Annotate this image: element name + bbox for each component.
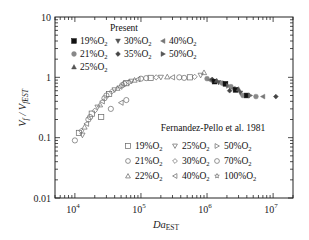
y-tick-label: 0.01 bbox=[34, 193, 52, 204]
scatter-chart: 0.010.1110104105106107 Present19%O230%O2… bbox=[0, 0, 309, 240]
diamond-marker bbox=[192, 74, 197, 79]
diamond-marker bbox=[116, 52, 121, 57]
circle-marker bbox=[215, 159, 220, 164]
svg-text:DaEST: DaEST bbox=[152, 219, 180, 232]
legend-entry-label: 19%O2 bbox=[80, 36, 108, 47]
legend-entry-label: 30%O2 bbox=[182, 156, 210, 167]
legend-entry-label: 35%O2 bbox=[124, 49, 152, 60]
triangle-up-marker bbox=[72, 65, 77, 69]
diamond-marker bbox=[273, 94, 278, 99]
triangle-up-marker bbox=[201, 70, 206, 75]
legend-entry-label: 25%O2 bbox=[182, 141, 210, 152]
x-axis-title: DaEST bbox=[152, 219, 180, 232]
diamond-marker bbox=[173, 159, 178, 164]
legend-entry-label: 25%O2 bbox=[80, 62, 108, 73]
y-tick-label: 1 bbox=[46, 72, 51, 83]
circle-marker bbox=[72, 52, 77, 57]
circle-marker bbox=[182, 75, 187, 80]
triangle-down-marker bbox=[158, 75, 163, 80]
circle-marker bbox=[72, 138, 77, 143]
y-tick-label: 10 bbox=[41, 12, 51, 23]
legend-title: Fernandez-Pello et al. 1981 bbox=[161, 123, 266, 133]
circle-marker bbox=[126, 159, 131, 164]
legend-present: Present19%O230%O240%O221%O235%O250%O225%… bbox=[72, 23, 197, 73]
x-tick-label: 106 bbox=[198, 202, 212, 215]
triangle-up-marker bbox=[126, 174, 131, 178]
legend-entry-label: 30%O2 bbox=[124, 36, 152, 47]
svg-text:Vf / VfEST: Vf / VfEST bbox=[17, 88, 30, 127]
x-tick-label: 107 bbox=[264, 202, 278, 215]
x-tick-label: 105 bbox=[132, 202, 146, 215]
legend-entry-label: 50%O2 bbox=[224, 141, 252, 152]
circle-marker bbox=[138, 76, 143, 81]
square-marker bbox=[72, 39, 77, 44]
triangle-left-marker bbox=[173, 174, 177, 179]
triangle-left-marker bbox=[118, 100, 123, 105]
triangle-down-marker bbox=[116, 39, 121, 43]
square-marker bbox=[126, 144, 131, 149]
legend-entry-label: 40%O2 bbox=[182, 171, 210, 182]
triangle-up-marker bbox=[165, 74, 170, 79]
triangle-right-marker bbox=[215, 144, 219, 149]
triangle-right-marker bbox=[161, 52, 165, 57]
y-axis-title: Vf / VfEST bbox=[17, 88, 30, 127]
x-tick-label: 104 bbox=[66, 202, 80, 215]
circle-marker bbox=[124, 97, 129, 102]
legend-entry-label: 70%O2 bbox=[224, 156, 252, 167]
legend-entry-label: 19%O2 bbox=[135, 141, 163, 152]
square-marker bbox=[99, 114, 104, 119]
square-marker bbox=[187, 75, 192, 80]
star-marker bbox=[215, 174, 220, 178]
triangle-up-marker bbox=[97, 102, 102, 107]
axis-tick-labels: 0.010.1110104105106107 bbox=[34, 12, 279, 216]
triangle-down-marker bbox=[173, 144, 178, 148]
legend-entry-label: 50%O2 bbox=[169, 49, 197, 60]
circle-marker bbox=[254, 94, 259, 99]
circle-marker bbox=[108, 106, 113, 111]
legend-entry-label: 21%O2 bbox=[135, 156, 163, 167]
diamond-marker bbox=[92, 108, 97, 113]
triangle-right-marker bbox=[248, 93, 252, 98]
legend-entry-label: 21%O2 bbox=[80, 49, 108, 60]
legend-fernandez-pello: Fernandez-Pello et al. 198119%O225%O250%… bbox=[126, 123, 266, 182]
triangle-left-marker bbox=[260, 94, 264, 99]
y-tick-label: 0.1 bbox=[39, 132, 52, 143]
legend-entry-label: 40%O2 bbox=[169, 36, 197, 47]
legend-title: Present bbox=[110, 23, 138, 33]
triangle-left-marker bbox=[161, 39, 165, 44]
circle-marker bbox=[177, 75, 182, 80]
triangle-left-marker bbox=[170, 75, 175, 80]
triangle-down-marker bbox=[198, 73, 203, 78]
legend-entry-label: 100%O2 bbox=[224, 171, 256, 182]
legend-entry-label: 22%O2 bbox=[135, 171, 163, 182]
